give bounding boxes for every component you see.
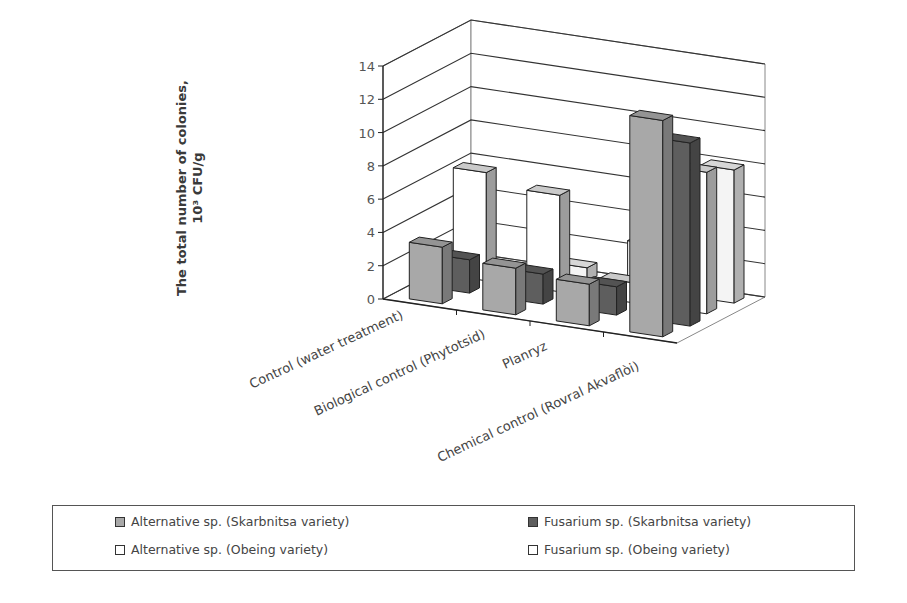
- bar-side-face: [589, 279, 599, 326]
- y-tick-label: 4: [367, 225, 375, 240]
- legend-swatch-icon: [528, 545, 538, 555]
- bar-side-face: [663, 115, 673, 336]
- y-tick-label: 8: [367, 159, 375, 174]
- y-tick-label: 0: [367, 292, 375, 307]
- bar-side-face: [707, 167, 717, 314]
- x-category-label: Planryz: [500, 338, 550, 372]
- chart-plot-area: 02468101214Control (water treatment)Biol…: [0, 0, 907, 500]
- bar-front-face: [409, 242, 442, 303]
- y-tick-label: 6: [367, 192, 375, 207]
- legend-item-alternaria-skarbnitsa: Alternative sp. (Skarbnitsa variety): [115, 514, 350, 529]
- bar: [409, 237, 452, 304]
- bar-side-face: [442, 242, 452, 304]
- legend-swatch-icon: [115, 545, 125, 555]
- bar-side-face: [617, 282, 627, 316]
- legend-swatch-icon: [528, 517, 538, 527]
- y-axis-label: The total number of colonies, 10³ CFU/g: [174, 80, 206, 296]
- bar-front-face: [556, 279, 589, 326]
- legend-label: Alternative sp. (Obeing variety): [131, 542, 328, 557]
- bar-side-face: [516, 263, 526, 315]
- legend-label: Alternative sp. (Skarbnitsa variety): [131, 514, 350, 529]
- y-tick-label: 14: [358, 59, 375, 74]
- legend-item-fusarium-obeing: Fusarium sp. (Obeing variety): [528, 542, 730, 557]
- y-tick-label: 10: [358, 126, 375, 141]
- y-tick-label: 2: [367, 259, 375, 274]
- bar-side-face: [690, 138, 700, 326]
- bar-side-face: [543, 269, 553, 304]
- y-axis-label-line-2: 10³ CFU/g: [190, 80, 206, 296]
- legend-item-alternaria-obeing: Alternative sp. (Obeing variety): [115, 542, 328, 557]
- bar-side-face: [734, 165, 744, 303]
- bar-side-face: [470, 255, 480, 294]
- legend-item-fusarium-skarbnitsa: Fusarium sp. (Skarbnitsa variety): [528, 514, 751, 529]
- chart-container: 02468101214Control (water treatment)Biol…: [0, 0, 907, 603]
- y-tick-label: 12: [358, 92, 375, 107]
- bar: [556, 274, 599, 326]
- x-category-label: Chemical control (Rovral Akvaflòi): [435, 358, 641, 465]
- legend-label: Fusarium sp. (Skarbnitsa variety): [544, 514, 751, 529]
- x-axis-labels: Control (water treatment)Biological cont…: [247, 307, 641, 465]
- bar: [483, 258, 526, 315]
- y-axis-label-line-1: The total number of colonies,: [174, 80, 190, 296]
- legend-label: Fusarium sp. (Obeing variety): [544, 542, 730, 557]
- bar-front-face: [483, 263, 516, 315]
- legend-swatch-icon: [115, 517, 125, 527]
- bar: [630, 110, 673, 336]
- legend: Alternative sp. (Skarbnitsa variety) Fus…: [52, 505, 855, 571]
- bar-front-face: [630, 116, 663, 337]
